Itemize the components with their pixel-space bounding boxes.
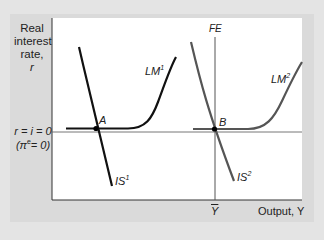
y-axis-symbol: r — [14, 61, 50, 74]
full-employment-output-tick: Y — [211, 205, 218, 218]
is2-label-sup: 2 — [247, 170, 251, 177]
pi-symbol: (π — [16, 139, 27, 151]
y-axis-label-line3: rate, — [14, 48, 50, 61]
zero-rate-label-line2: (πe= 0) — [14, 138, 52, 152]
is1-label: IS1 — [115, 175, 129, 188]
lm1-label-sup: 1 — [160, 64, 164, 71]
y-axis-label-line2: interest — [14, 35, 50, 48]
fe-label: FE — [209, 22, 222, 35]
point-a-marker — [93, 126, 98, 131]
is1-label-name: IS — [115, 175, 125, 187]
lm1-label-name: LM — [145, 65, 160, 77]
is2-label-name: IS — [237, 171, 247, 183]
is1-label-sup: 1 — [125, 174, 129, 181]
is1-curve — [79, 47, 112, 186]
lm2-label-name: LM — [271, 73, 286, 85]
is2-label: IS2 — [237, 171, 251, 184]
point-b-label: B — [219, 116, 226, 129]
zero-rate-label: r = i = 0 (πe= 0) — [14, 124, 52, 152]
point-b-marker — [212, 126, 217, 131]
y-axis-label-line1: Real — [14, 22, 50, 35]
lm1-label: LM1 — [145, 65, 164, 78]
is2-curve — [191, 42, 234, 181]
zero-rate-label-line1: r = i = 0 — [14, 124, 52, 138]
point-a-label: A — [99, 114, 106, 127]
lm2-label-sup: 2 — [286, 72, 290, 79]
lm2-label: LM2 — [271, 73, 290, 86]
zero-rate-label-suffix: = 0) — [31, 139, 50, 151]
x-axis-label: Output, Y — [258, 205, 304, 218]
y-axis-label: Real interest rate, r — [14, 22, 50, 74]
